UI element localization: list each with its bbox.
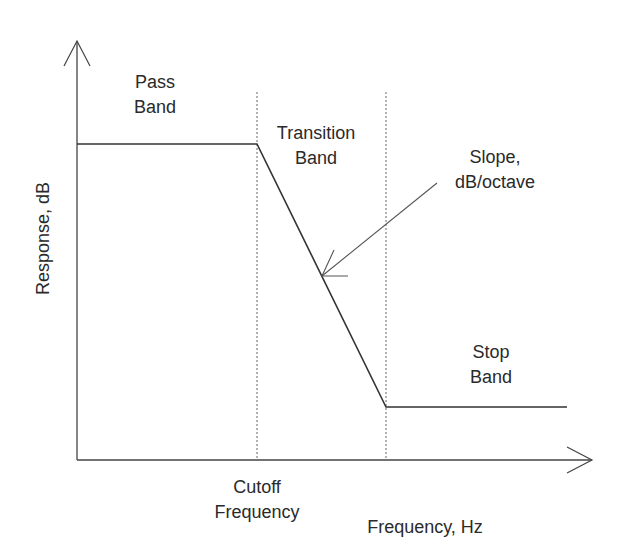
- stop-band-label: Stop Band: [451, 340, 531, 390]
- stop-band-line2: Band: [451, 365, 531, 390]
- slope-pointer-arrowhead-icon: [322, 250, 348, 276]
- x-axis-label: Frequency, Hz: [355, 515, 495, 540]
- slope-line1: Slope,: [440, 145, 550, 170]
- slope-pointer: [322, 183, 437, 276]
- cutoff-frequency-label: Cutoff Frequency: [207, 475, 307, 525]
- transition-band-line1: Transition: [266, 121, 366, 146]
- filter-response-diagram: [0, 0, 622, 559]
- slope-label: Slope, dB/octave: [440, 145, 550, 195]
- y-axis-label: Response, dB: [33, 174, 54, 304]
- transition-band-line2: Band: [266, 146, 366, 171]
- pass-band-line1: Pass: [120, 70, 190, 95]
- pass-band-line2: Band: [120, 95, 190, 120]
- transition-band-label: Transition Band: [266, 121, 366, 171]
- cutoff-line2: Frequency: [207, 500, 307, 525]
- pass-band-label: Pass Band: [120, 70, 190, 120]
- cutoff-line1: Cutoff: [207, 475, 307, 500]
- slope-line2: dB/octave: [440, 170, 550, 195]
- stop-band-line1: Stop: [451, 340, 531, 365]
